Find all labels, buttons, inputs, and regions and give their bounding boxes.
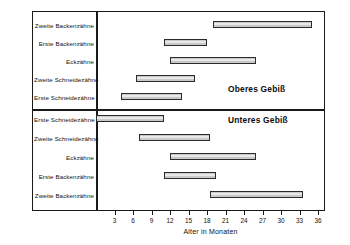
row-label-upper-0: Zweite Backenzähne bbox=[34, 22, 94, 30]
row-label-lower-3: Erste Backenzähne bbox=[34, 173, 94, 181]
row-label-lower-4: Zweite Backenzähne bbox=[34, 192, 94, 200]
x-tick-33 bbox=[300, 211, 301, 215]
x-tick-30 bbox=[281, 211, 282, 215]
row-label-upper-1: Erste Backenzähne bbox=[34, 40, 94, 48]
bar-lower-2 bbox=[170, 153, 256, 160]
x-axis-title: Alter in Monaten bbox=[96, 228, 325, 235]
x-tick-label-33: 33 bbox=[292, 217, 308, 224]
x-tick-label-27: 27 bbox=[255, 217, 271, 224]
bar-lower-4 bbox=[210, 191, 303, 198]
x-tick-6 bbox=[133, 211, 134, 215]
x-tick-label-12: 12 bbox=[162, 217, 178, 224]
x-tick-18 bbox=[207, 211, 208, 215]
x-tick-24 bbox=[244, 211, 245, 215]
jaw-panel-divider bbox=[32, 109, 325, 111]
bar-upper-0 bbox=[213, 21, 312, 28]
tooth-eruption-chart: Zweite Backenzähne Erste Backenzähne Eck… bbox=[0, 0, 350, 245]
x-tick-label-18: 18 bbox=[199, 217, 215, 224]
panel-caption-upper: Oberes Gebiß bbox=[228, 84, 285, 94]
x-tick-21 bbox=[226, 211, 227, 215]
bar-lower-3 bbox=[164, 172, 216, 179]
x-tick-12 bbox=[170, 211, 171, 215]
x-tick-3 bbox=[115, 211, 116, 215]
x-tick-15 bbox=[189, 211, 190, 215]
x-tick-label-3: 3 bbox=[107, 217, 123, 224]
x-tick-label-30: 30 bbox=[273, 217, 289, 224]
row-label-upper-3: Zweite Schneidezähne bbox=[34, 76, 94, 84]
x-tick-9 bbox=[152, 211, 153, 215]
row-label-upper-4: Erste Schneidezähne bbox=[34, 94, 94, 102]
x-tick-label-9: 9 bbox=[144, 217, 160, 224]
bar-lower-1 bbox=[139, 134, 210, 141]
x-tick-label-6: 6 bbox=[125, 217, 141, 224]
bar-upper-2 bbox=[170, 57, 256, 64]
panel-caption-lower: Unteres Gebiß bbox=[228, 115, 288, 125]
bar-upper-3 bbox=[136, 75, 195, 82]
x-tick-label-36: 36 bbox=[310, 217, 326, 224]
bar-upper-1 bbox=[164, 39, 207, 46]
row-label-lower-2: Eckzähne bbox=[34, 154, 94, 162]
x-tick-label-24: 24 bbox=[236, 217, 252, 224]
row-label-lower-1: Zweite Schneidezähne bbox=[34, 135, 94, 143]
x-tick-label-21: 21 bbox=[218, 217, 234, 224]
x-tick-36 bbox=[318, 211, 319, 215]
x-tick-label-15: 15 bbox=[181, 217, 197, 224]
x-tick-27 bbox=[263, 211, 264, 215]
bar-lower-0 bbox=[96, 115, 164, 122]
label-column-separator bbox=[96, 11, 98, 211]
row-label-upper-2: Eckzähne bbox=[34, 58, 94, 66]
bar-upper-4 bbox=[121, 93, 183, 100]
row-label-lower-0: Erste Schneidezähne bbox=[34, 116, 94, 124]
